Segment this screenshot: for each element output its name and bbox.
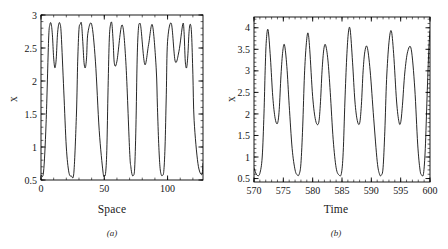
x-tick-label: 575 xyxy=(276,185,291,196)
x-tick-label: 595 xyxy=(393,185,408,196)
panel-b-plot-group: 5705755805855905956000.511.522.533.54 xyxy=(238,17,438,196)
y-tick-label: 3 xyxy=(32,10,37,21)
x-tick-label: 600 xyxy=(423,185,438,196)
panel-b: 5705755805855905956000.511.522.533.54 x … xyxy=(224,0,448,249)
panel-a-y-axis-label: x xyxy=(7,88,19,110)
y-tick-label: 1.5 xyxy=(238,130,251,141)
x-tick-label: 100 xyxy=(160,183,175,194)
panel-b-x-axis-label: Time xyxy=(224,203,448,215)
y-tick-label: 1 xyxy=(245,152,250,163)
y-tick-label: 2.5 xyxy=(25,43,38,54)
y-tick-label: 0.5 xyxy=(238,173,251,184)
y-tick-label: 4 xyxy=(245,22,250,33)
y-tick-label: 2.5 xyxy=(238,87,251,98)
x-tick-label: 570 xyxy=(247,185,262,196)
y-tick-label: 1 xyxy=(32,142,37,153)
data-curve xyxy=(41,22,203,178)
panel-a-x-axis-label: Space xyxy=(0,203,224,215)
figure-container: 0501000.511.522.53 x Space (a) 570575580… xyxy=(0,0,448,249)
x-tick-label: 50 xyxy=(99,183,109,194)
x-tick-label: 590 xyxy=(364,185,379,196)
x-tick-label: 0 xyxy=(39,183,44,194)
x-tick-label: 580 xyxy=(305,185,320,196)
y-tick-label: 2 xyxy=(32,76,37,87)
y-tick-label: 1.5 xyxy=(25,109,38,120)
data-curve xyxy=(254,27,430,176)
panel-a-caption: (a) xyxy=(0,228,224,238)
y-tick-label: 3 xyxy=(245,65,250,76)
y-tick-label: 0.5 xyxy=(25,175,38,186)
panel-b-y-axis-label: x xyxy=(225,88,237,110)
y-tick-label: 2 xyxy=(245,109,250,120)
panel-b-caption: (b) xyxy=(224,228,448,238)
x-tick-label: 585 xyxy=(335,185,350,196)
y-tick-label: 3.5 xyxy=(238,44,251,55)
panel-a: 0501000.511.522.53 x Space (a) xyxy=(0,0,224,249)
